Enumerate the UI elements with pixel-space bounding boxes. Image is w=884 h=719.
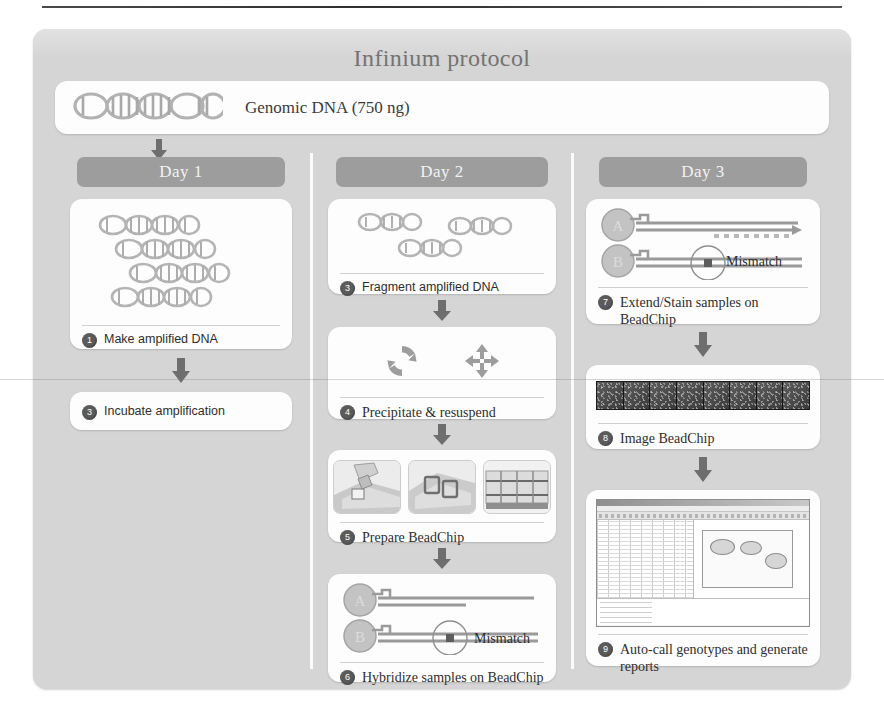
genotyping-software-art xyxy=(596,499,810,627)
step-text-2: Incubate amplification xyxy=(104,404,225,419)
step-text-3: Fragment amplified DNA xyxy=(362,280,499,295)
fragmented-dna-art xyxy=(338,208,546,266)
genomic-dna-label: Genomic DNA (750 ng) xyxy=(245,98,410,118)
step-text-6: Hybridize samples on BeadChip xyxy=(362,669,544,686)
step-text-1: Make amplified DNA xyxy=(104,332,218,347)
step-text-4: Precipitate & resuspend xyxy=(362,404,496,421)
recycle-icon xyxy=(382,341,422,385)
arrow-step-5-to-6 xyxy=(316,548,568,570)
svg-text:A: A xyxy=(613,218,624,234)
step-text-8: Image BeadChip xyxy=(620,430,714,447)
step-badge-8: 8 xyxy=(598,431,613,446)
step-badge-3: 3 xyxy=(340,281,355,296)
arrow-step-8-to-9 xyxy=(577,457,829,483)
step-card-3: 3 Fragment amplified DNA xyxy=(328,199,556,294)
card-divider xyxy=(340,397,544,398)
day-header-2: Day 2 xyxy=(336,157,548,187)
beadchip-scan-strip-icon xyxy=(596,381,810,410)
step-badge-4: 4 xyxy=(340,405,355,420)
column-day-1: Day 1 xyxy=(55,157,307,669)
genotyping-software-screenshot-icon xyxy=(596,499,810,627)
step-label-1: 1 Make amplified DNA xyxy=(80,332,282,348)
step-label-6: 6 Hybridize samples on BeadChip xyxy=(338,669,546,686)
step-card-9: 9 Auto-call genotypes and generate repor… xyxy=(586,490,820,666)
arrow-step-7-to-8 xyxy=(577,332,829,358)
step-label-2: 3 Incubate amplification xyxy=(80,404,282,420)
step-text-5: Prepare BeadChip xyxy=(362,529,464,546)
beadchip-photo-thumbnails xyxy=(333,460,551,514)
step-card-2: 3 Incubate amplification xyxy=(70,392,292,430)
beadchip-scan-art xyxy=(596,374,810,416)
step-badge-6: 6 xyxy=(340,670,355,685)
step-label-3: 3 Fragment amplified DNA xyxy=(338,280,546,296)
precipitate-resuspend-art xyxy=(338,336,546,390)
figure-title: Infinium protocol xyxy=(33,45,851,72)
amplified-dna-art xyxy=(80,208,282,318)
step-badge-7: 7 xyxy=(598,295,613,310)
step-badge-9: 9 xyxy=(598,642,613,657)
arrow-step-4-to-5 xyxy=(316,424,568,446)
extend-stain-probe-art: A B xyxy=(596,208,810,280)
step-label-8: 8 Image BeadChip xyxy=(596,430,810,447)
protocol-columns: Day 1 xyxy=(55,157,829,669)
step-badge-2: 3 xyxy=(82,405,97,420)
card-divider xyxy=(340,662,544,663)
step-text-7: Extend/Stain samples on BeadChip xyxy=(620,294,810,328)
step-card-6: A B Mismatch xyxy=(328,574,556,682)
hybridize-probe-art: A B Mismatch xyxy=(338,583,546,655)
infinium-protocol-figure: Infinium protocol xyxy=(33,29,851,689)
thumb-load-sample-icon xyxy=(333,460,401,514)
mismatch-annotation-6: Mismatch xyxy=(474,631,530,647)
card-divider xyxy=(598,287,808,288)
step-badge-5: 5 xyxy=(340,530,355,545)
step-label-5: 5 Prepare BeadChip xyxy=(338,529,546,546)
thumb-chip-rack-icon xyxy=(483,460,551,514)
software-cluster-plot xyxy=(694,520,809,598)
svg-text:B: B xyxy=(355,629,365,645)
card-divider xyxy=(340,522,544,523)
dna-helix-icon xyxy=(73,89,223,127)
step-badge-1: 1 xyxy=(82,333,97,348)
arrow-step-1-to-2 xyxy=(55,358,307,384)
arrow-step-3-to-4 xyxy=(316,300,568,322)
prepare-beadchip-art xyxy=(338,459,546,515)
day-header-3: Day 3 xyxy=(599,157,807,187)
step-label-4: 4 Precipitate & resuspend xyxy=(338,404,546,421)
genomic-dna-input-card: Genomic DNA (750 ng) xyxy=(55,81,829,134)
step-card-5: 5 Prepare BeadChip xyxy=(328,450,556,542)
step-card-8: 8 Image BeadChip xyxy=(586,365,820,449)
card-divider xyxy=(340,273,544,274)
mismatch-annotation-7: Mismatch xyxy=(726,254,782,270)
card-divider xyxy=(82,325,280,326)
page-top-rule xyxy=(42,6,842,8)
card-divider xyxy=(598,423,808,424)
move-arrows-icon xyxy=(462,341,502,385)
step-card-4: 4 Precipitate & resuspend xyxy=(328,327,556,419)
step-label-7: 7 Extend/Stain samples on BeadChip xyxy=(596,294,810,328)
thumb-chip-holder-icon xyxy=(408,460,476,514)
day-header-1: Day 1 xyxy=(77,157,285,187)
card-divider xyxy=(598,634,808,635)
column-divider-1 xyxy=(307,157,316,669)
column-divider-2 xyxy=(568,157,577,669)
step-card-1: 1 Make amplified DNA xyxy=(70,199,292,349)
svg-text:B: B xyxy=(613,254,623,270)
column-day-3: Day 3 A xyxy=(577,157,829,669)
software-data-table xyxy=(597,520,694,598)
step-label-9: 9 Auto-call genotypes and generate repor… xyxy=(596,641,810,675)
step-card-7: A B xyxy=(586,199,820,324)
step-text-9: Auto-call genotypes and generate reports xyxy=(620,641,810,675)
column-day-2: Day 2 xyxy=(316,157,568,669)
svg-text:A: A xyxy=(355,593,366,609)
